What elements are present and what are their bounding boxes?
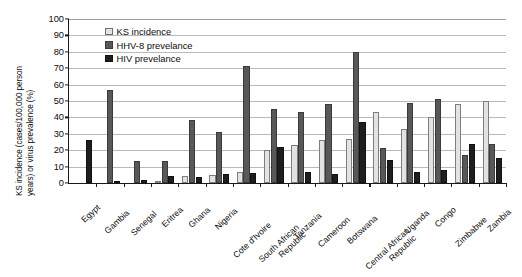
- bar-hiv: [196, 177, 202, 183]
- y-axis-title-line-1: KS incidence (cases/100,000 person: [15, 66, 26, 196]
- bar-hhv: [162, 161, 168, 183]
- bar-hhv: [380, 148, 386, 183]
- y-tick-label-20: 20: [54, 145, 64, 155]
- bar-hiv: [86, 140, 92, 183]
- x-axis-label-line: Nigeria: [214, 207, 240, 233]
- bar-ks: [237, 172, 243, 183]
- bar-hhv: [271, 109, 277, 183]
- x-axis-label: Nigeria: [214, 207, 240, 233]
- legend-label: HIV prevelance: [117, 53, 181, 64]
- x-axis-label: Botswana: [345, 214, 379, 247]
- bar-ks: [264, 150, 270, 183]
- x-axis-label: Zimbabwe: [454, 215, 490, 249]
- x-axis-label-line: Zimbabwe: [454, 215, 490, 249]
- x-axis-label: Gambia: [103, 209, 132, 237]
- bar-hhv: [489, 144, 495, 183]
- y-tick-label-40: 40: [54, 112, 64, 122]
- bar-hiv: [168, 176, 174, 183]
- bar-hiv: [141, 180, 147, 183]
- bar-hhv: [407, 103, 413, 183]
- bar-hiv: [387, 160, 393, 183]
- legend-swatch-hhv: [105, 41, 113, 49]
- bar-hiv: [114, 181, 120, 183]
- bar-ks: [155, 181, 161, 183]
- y-tick-label-70: 70: [54, 63, 64, 73]
- bar-group: [479, 19, 506, 183]
- legend-item: HIV prevelance: [105, 53, 193, 64]
- y-tick-label-10: 10: [54, 162, 64, 172]
- bar-hiv: [359, 122, 365, 183]
- x-axis-label: Congo: [433, 205, 458, 229]
- legend-label: HHV-8 prevelance: [117, 40, 193, 51]
- y-tick-label-50: 50: [54, 96, 64, 106]
- x-axis-label-line: Uganda: [403, 209, 432, 237]
- bar-hiv: [441, 170, 447, 183]
- bar-hhv: [134, 161, 140, 183]
- bar-group: [451, 19, 478, 183]
- bar-hiv: [414, 172, 420, 183]
- y-tick-label-30: 30: [54, 129, 64, 139]
- y-tick-label-80: 80: [54, 47, 64, 57]
- chart-legend: KS incidenceHHV-8 prevelanceHIV prevelan…: [105, 26, 193, 64]
- x-tick-mark: [506, 183, 507, 187]
- bar-group: [315, 19, 342, 183]
- y-tick-label-0: 0: [59, 178, 64, 188]
- x-axis-label-line: Congo: [433, 205, 458, 229]
- x-axis-label-line: Gambia: [103, 209, 132, 237]
- bar-hiv: [250, 173, 256, 183]
- chart-figure: KS incidence (cases/100,000 person years…: [0, 0, 522, 277]
- bar-hhv: [189, 120, 195, 183]
- bar-hiv: [277, 147, 283, 183]
- bar-group: [69, 19, 96, 183]
- bar-hhv: [435, 99, 441, 183]
- bar-hiv: [305, 172, 311, 183]
- bar-group: [206, 19, 233, 183]
- x-axis-label-line: Zambia: [486, 208, 514, 235]
- bar-group: [260, 19, 287, 183]
- bar-hiv: [223, 174, 229, 183]
- bar-hiv: [469, 144, 475, 183]
- bar-ks: [428, 117, 434, 183]
- bar-hhv: [462, 155, 468, 183]
- x-axis-label-line: Botswana: [345, 214, 379, 247]
- bar-ks: [401, 129, 407, 183]
- x-axis-label-line: Egypt: [79, 203, 102, 225]
- y-axis-title: KS incidence (cases/100,000 person years…: [2, 0, 36, 200]
- x-axis-labels: EgyptGambiaSenegalEritreaGhanaNigeriaCot…: [69, 186, 506, 276]
- bar-group: [397, 19, 424, 183]
- bar-ks: [455, 104, 461, 183]
- x-axis-label-line: Cameroon: [317, 215, 353, 249]
- bar-hhv: [243, 66, 249, 183]
- y-axis-title-line-2: years) or virus prevalence (%): [26, 90, 37, 196]
- x-axis-label: Ghana: [187, 206, 212, 231]
- x-axis-label: Uganda: [403, 209, 432, 237]
- bar-hhv: [298, 112, 304, 183]
- bar-ks: [373, 112, 379, 183]
- bar-ks: [483, 101, 489, 183]
- legend-item: HHV-8 prevelance: [105, 40, 193, 51]
- y-tick-label-60: 60: [54, 80, 64, 90]
- legend-label: KS incidence: [117, 26, 172, 37]
- x-axis-label-line: Ghana: [187, 206, 212, 231]
- bar-group: [424, 19, 451, 183]
- y-tick-label-100: 100: [48, 14, 64, 24]
- legend-swatch-hiv: [105, 55, 113, 63]
- legend-swatch-ks: [105, 28, 113, 36]
- x-axis-label: Senegal: [130, 210, 160, 239]
- bar-group: [342, 19, 369, 183]
- x-axis-label-line: Senegal: [130, 210, 160, 239]
- bar-group: [288, 19, 315, 183]
- bar-hiv: [332, 174, 338, 183]
- bar-hhv: [325, 104, 331, 183]
- y-tick-label-90: 90: [54, 30, 64, 40]
- bar-group: [233, 19, 260, 183]
- legend-item: KS incidence: [105, 26, 193, 37]
- bar-hhv: [216, 132, 222, 183]
- bar-hiv: [496, 158, 502, 183]
- bar-ks: [346, 139, 352, 183]
- bar-group: [369, 19, 396, 183]
- x-axis-label: Zambia: [486, 208, 514, 235]
- x-axis-label: Egypt: [79, 203, 102, 225]
- bar-ks: [319, 140, 325, 183]
- bar-hhv: [353, 52, 359, 183]
